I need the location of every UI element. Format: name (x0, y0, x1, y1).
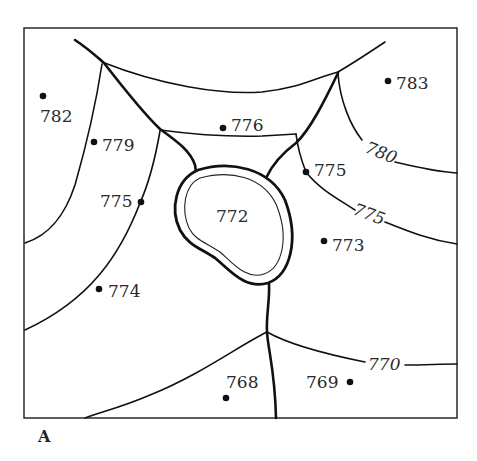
contour-780-tail (395, 162, 457, 173)
spot-dot-768 (223, 395, 230, 402)
contour-780 (338, 74, 362, 140)
spot-dot-775-east (303, 169, 310, 176)
lake-elevation-label: 772 (216, 206, 248, 226)
divide-northwest (75, 40, 196, 172)
spot-dot-782 (40, 93, 47, 100)
spot-label-774: 774 (108, 281, 140, 301)
contour-770 (267, 332, 365, 362)
spot-label-776: 776 (231, 115, 263, 135)
panel-label: A (37, 427, 51, 446)
upper-contour-arc (102, 62, 338, 93)
topographic-map: 772 780 775 770 782 783 779 776 775 775 … (0, 0, 477, 461)
spot-dot-779 (91, 139, 98, 146)
spot-label-768: 768 (226, 372, 258, 392)
spot-label-783: 783 (396, 73, 428, 93)
spot-dot-783 (385, 78, 392, 85)
spot-label-782: 782 (40, 106, 72, 126)
spot-label-775-east: 775 (314, 160, 346, 180)
contour-label-780: 780 (363, 137, 401, 168)
spot-dot-773 (321, 238, 328, 245)
upper-right-contour (338, 42, 385, 72)
contour-776-lower (160, 130, 296, 136)
spot-label-779: 779 (102, 135, 134, 155)
contour-770-tail (405, 364, 457, 365)
contour-775-east-tail (385, 222, 457, 244)
spot-label-775-west: 775 (100, 191, 132, 211)
contour-label-775: 775 (351, 199, 388, 229)
contour-label-770: 770 (368, 354, 401, 374)
divide-south (267, 284, 276, 418)
spot-dot-776 (220, 125, 227, 132)
spot-dot-775-west (138, 199, 145, 206)
spot-dot-769 (347, 379, 354, 386)
spot-label-773: 773 (332, 235, 364, 255)
spot-label-769: 769 (306, 372, 338, 392)
contour-west-inner (25, 64, 102, 243)
spot-dot-774 (96, 286, 103, 293)
